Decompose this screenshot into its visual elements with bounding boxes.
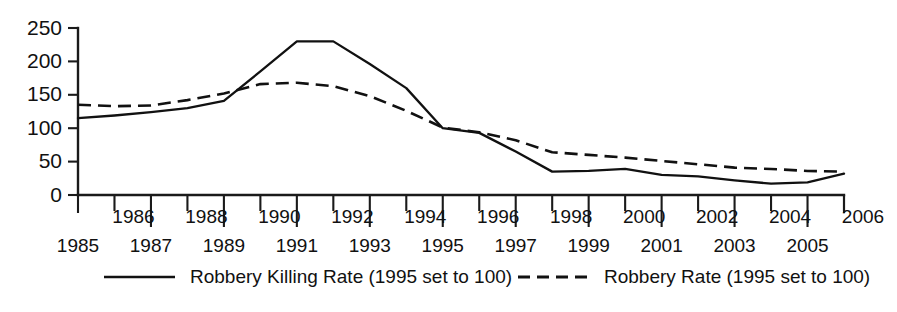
y-axis: 050100150200250: [27, 16, 78, 206]
legend-label-2: Robbery Rate (1995 set to 100): [604, 266, 870, 287]
x-axis-tick-label: 1990: [258, 206, 300, 227]
x-axis-tick-label: 1995: [422, 235, 464, 256]
chart-legend: Robbery Killing Rate (1995 set to 100)Ro…: [104, 266, 870, 287]
x-axis-tick-label: 1991: [276, 235, 318, 256]
x-axis-tick-label: 1996: [477, 206, 519, 227]
x-axis-tick-label: 2002: [696, 206, 738, 227]
series-line-2: [78, 83, 844, 172]
y-axis-tick-label: 150: [27, 82, 62, 105]
x-axis-tick-label: 1985: [57, 235, 99, 256]
x-axis-tick-label: 1994: [404, 206, 447, 227]
x-axis-tick-label: 1993: [349, 235, 391, 256]
y-axis-tick-label: 250: [27, 16, 62, 39]
x-axis-tick-label: 1988: [185, 206, 227, 227]
x-axis-tick-label: 2004: [769, 206, 812, 227]
x-axis-tick-label: 2000: [623, 206, 665, 227]
x-axis-tick-label: 2001: [640, 235, 682, 256]
x-axis-tick-label: 1998: [550, 206, 592, 227]
x-axis-tick-label: 1987: [130, 235, 172, 256]
x-axis-tick-label: 1989: [203, 235, 245, 256]
y-axis-tick-label: 200: [27, 49, 62, 72]
x-axis-tick-label: 2005: [786, 235, 828, 256]
line-chart: 050100150200250 198519861987198819891990…: [0, 0, 897, 312]
x-axis-tick-labels: 1985198619871988198919901991199219931994…: [57, 206, 884, 256]
y-axis-tick-label: 0: [50, 183, 62, 206]
chart-series-group: [78, 41, 844, 183]
chart-canvas: 050100150200250 198519861987198819891990…: [0, 0, 897, 312]
legend-label-1: Robbery Killing Rate (1995 set to 100): [190, 266, 512, 287]
x-axis-tick-label: 1986: [112, 206, 154, 227]
x-axis-tick-label: 1997: [495, 235, 537, 256]
y-axis-tick-label: 50: [39, 149, 62, 172]
y-axis-tick-label: 100: [27, 116, 62, 139]
series-line-1: [78, 41, 844, 183]
x-axis-tick-label: 1992: [331, 206, 373, 227]
x-axis-tick-label: 2006: [842, 206, 884, 227]
x-axis-tick-label: 1999: [568, 235, 610, 256]
x-axis-tick-label: 2003: [713, 235, 755, 256]
